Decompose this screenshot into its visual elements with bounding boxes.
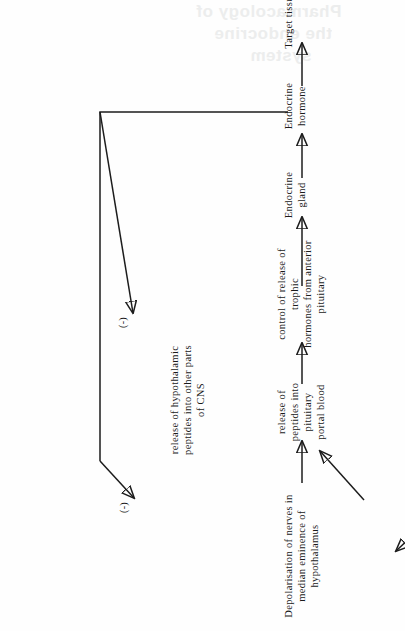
- node-cns-peptides: release of hypothalamic peptides into ot…: [168, 339, 207, 461]
- node-portal-release: release of peptides into pituitary porta…: [275, 378, 327, 446]
- feedback-arrow-to-depolarisation: [100, 461, 134, 498]
- diagram-connectors: [0, 0, 405, 631]
- scanned-page: Pharmacology of the endocrine system: [0, 0, 405, 631]
- node-endocrine-hormone: Endocrine hormone: [282, 70, 308, 142]
- feedback-minus-trophic: (-): [117, 317, 128, 328]
- arrow-stimuli-to-depolarisation: [396, 521, 405, 551]
- feedback-minus-depolarisation: (-): [118, 502, 129, 513]
- node-target-tissue: Target tissue: [282, 0, 295, 49]
- node-trophic-control: control of release of trophic hormones f…: [275, 239, 327, 349]
- feedback-arrow-to-trophic-control: [100, 112, 133, 313]
- node-depolarisation: Depolarisation of nerves in median emine…: [282, 481, 321, 631]
- flow-diagram: Depolarisation of nerves in median emine…: [0, 0, 405, 631]
- arrow-depol-to-cns-peptides: [320, 451, 364, 500]
- node-endocrine-gland: Endocrine gland: [282, 164, 308, 226]
